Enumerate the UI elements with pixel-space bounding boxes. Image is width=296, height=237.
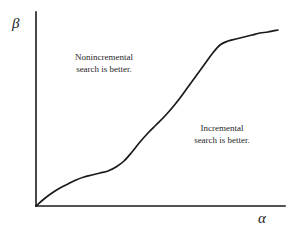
axis-lines (36, 12, 285, 206)
annotation-incremental: Incremental search is better. (176, 123, 268, 146)
annotation-nonincremental-line2: search is better. (58, 64, 150, 76)
annotation-incremental-line1: Incremental (176, 123, 268, 135)
annotation-nonincremental: Nonincremental search is better. (58, 52, 150, 75)
annotation-incremental-line2: search is better. (176, 135, 268, 147)
figure-canvas: β α Nonincremental search is better. Inc… (0, 0, 296, 237)
x-axis-label: α (258, 211, 266, 226)
plot-area (0, 0, 296, 237)
annotation-nonincremental-line1: Nonincremental (58, 52, 150, 64)
y-axis-label: β (12, 16, 19, 31)
